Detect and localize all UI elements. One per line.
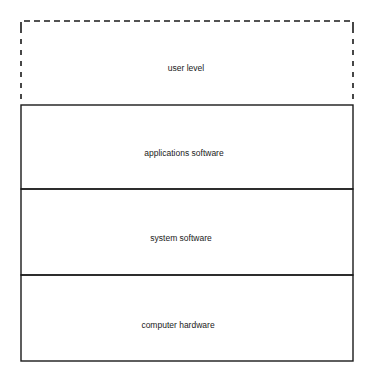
applications-software-box	[21, 105, 353, 189]
layer-computer-hardware: computer hardware	[21, 275, 353, 361]
system-software-label: system software	[150, 233, 212, 243]
computer-hardware-label: computer hardware	[141, 320, 215, 330]
layer-applications-software: applications software	[21, 105, 353, 189]
user-level-dashed-top	[21, 21, 353, 28]
layer-system-software: system software	[21, 189, 353, 275]
applications-software-label: applications software	[144, 148, 224, 158]
computer-hardware-box	[21, 275, 353, 361]
user-level-label: user level	[168, 63, 204, 73]
layer-diagram: user level applications software system …	[0, 0, 370, 381]
layer-user-level: user level	[21, 21, 353, 105]
system-software-box	[21, 189, 353, 275]
